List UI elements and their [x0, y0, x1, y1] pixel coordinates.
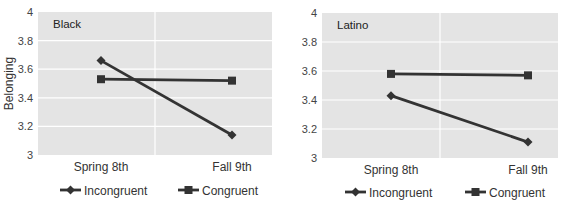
legend-label: Congruent: [489, 186, 546, 200]
legend-label: Incongruent: [369, 186, 433, 200]
y-tick-label: 4: [311, 7, 317, 19]
y-tick-label: 3.6: [302, 65, 317, 77]
legend-item-incongruent: Incongruent: [345, 186, 433, 200]
y-tick-label: 3: [27, 149, 33, 161]
square-marker: [387, 70, 395, 78]
chart-panel-latino: 33.23.43.63.84Spring 8thFall 9thLatinoIn…: [302, 7, 558, 200]
legend-label: Incongruent: [84, 184, 148, 198]
legend-item-incongruent: Incongruent: [60, 184, 148, 198]
y-tick-label: 3.8: [18, 35, 33, 47]
legend-label: Congruent: [202, 184, 259, 198]
y-tick-label: 3.2: [18, 120, 33, 132]
diamond-marker: [351, 188, 360, 197]
x-tick-label: Fall 9th: [508, 163, 547, 177]
square-marker: [472, 188, 480, 196]
belonging-charts: 33.23.43.63.84Spring 8thFall 9thBlackBel…: [0, 0, 565, 203]
x-tick-label: Spring 8th: [364, 163, 419, 177]
x-tick-label: Spring 8th: [74, 160, 129, 174]
y-axis-label: Belonging: [2, 57, 16, 110]
chart-panel-black: 33.23.43.63.84Spring 8thFall 9thBlackBel…: [2, 6, 272, 198]
y-tick-label: 3.2: [302, 123, 317, 135]
square-marker: [524, 71, 532, 79]
y-tick-label: 4: [27, 6, 33, 18]
y-tick-label: 3: [311, 152, 317, 164]
panel-title: Black: [53, 18, 81, 30]
legend-item-congruent: Congruent: [178, 184, 259, 198]
y-tick-label: 3.4: [302, 94, 317, 106]
diamond-marker: [66, 186, 75, 195]
y-tick-label: 3.4: [18, 92, 33, 104]
y-tick-label: 3.8: [302, 36, 317, 48]
square-marker: [97, 75, 105, 83]
y-tick-label: 3.6: [18, 63, 33, 75]
square-marker: [185, 186, 193, 194]
square-marker: [228, 77, 236, 85]
legend-item-congruent: Congruent: [465, 186, 546, 200]
x-tick-label: Fall 9th: [212, 160, 251, 174]
panel-title: Latino: [337, 19, 368, 31]
